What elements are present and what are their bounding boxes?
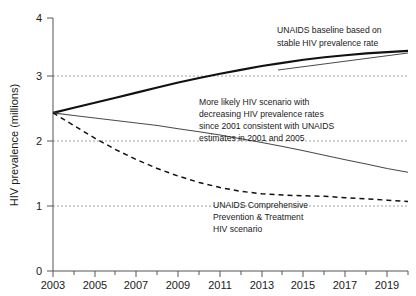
comprehensive-annotation-line-2: Prevention & Treatment: [213, 212, 304, 222]
y-tick-label-4: 4: [36, 12, 42, 24]
likely-annotation-line-2: decreasing HIV prevalence rates: [199, 109, 324, 119]
x-tick-label-2003: 2003: [41, 279, 65, 291]
comprehensive-annotation-line-3: HIV scenario: [213, 224, 262, 234]
y-tick-label-1: 1: [36, 200, 42, 212]
chart-svg: 4 3 2 1 0 HIV prevalence (millions): [0, 0, 416, 296]
y-axis-title: HIV prevalence (millions): [8, 84, 20, 206]
y-tick-label-3: 3: [36, 70, 42, 82]
likely-annotation-line-1: More likely HIV scenario with: [199, 97, 310, 107]
likely-annotation: More likely HIV scenario with decreasing…: [199, 97, 334, 143]
baseline-annotation-line-2: stable HIV prevalence rate: [277, 38, 378, 48]
comprehensive-annotation-line-1: UNAIDS Comprehensive: [213, 200, 308, 210]
baseline-annotation: UNAIDS baseline based on stable HIV prev…: [277, 25, 382, 48]
x-axis: 2003 2005 2007 2009 2011 2013 2015 2017 …: [41, 271, 408, 291]
likely-annotation-line-3: since 2001 consistent with UNAIDS: [199, 121, 334, 131]
y-tick-label-0: 0: [36, 265, 42, 277]
y-axis: 4 3 2 1 0 HIV prevalence (millions): [8, 12, 53, 277]
x-tick-label-2005: 2005: [83, 279, 107, 291]
x-tick-label-2013: 2013: [250, 279, 274, 291]
comprehensive-annotation: UNAIDS Comprehensive Prevention & Treatm…: [213, 200, 308, 234]
x-tick-label-2009: 2009: [166, 279, 190, 291]
baseline-annotation-line-1: UNAIDS baseline based on: [277, 25, 382, 35]
y-tick-label-2: 2: [36, 135, 42, 147]
hiv-prevalence-chart: 4 3 2 1 0 HIV prevalence (millions): [0, 0, 416, 296]
x-tick-label-2011: 2011: [208, 279, 232, 291]
likely-annotation-line-4: estimates in 2001 and 2005: [199, 133, 305, 143]
x-tick-label-2007: 2007: [124, 279, 148, 291]
x-tick-label-2015: 2015: [291, 279, 315, 291]
x-tick-label-2019: 2019: [375, 279, 399, 291]
x-tick-label-2017: 2017: [333, 279, 357, 291]
